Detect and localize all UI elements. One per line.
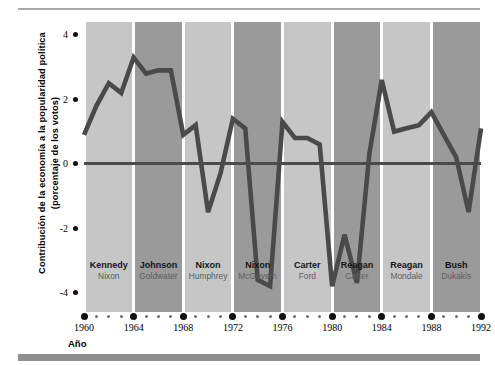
y-tick-dot <box>73 226 78 231</box>
x-tick-minor-1981 <box>343 315 346 318</box>
band-winner-name: Reagan <box>383 260 430 271</box>
x-tick-minor-1961 <box>95 315 98 318</box>
x-tick-label-1968: 1968 <box>163 322 203 333</box>
x-tick-minor-1975 <box>269 315 272 318</box>
band-winner-name: Nixon <box>234 260 281 271</box>
x-tick-label-1984: 1984 <box>362 322 402 333</box>
x-tick-major-1960 <box>81 313 88 320</box>
x-tick-minor-1963 <box>120 315 123 318</box>
x-tick-minor-1985 <box>393 315 396 318</box>
band-label-1980: ReaganCarter <box>334 260 381 282</box>
plot-area: KennedyNixonJohnsonGoldwaterNixonHumphre… <box>84 22 481 312</box>
y-tick-neg4: -4 <box>38 287 78 299</box>
band-loser-name: Dukakis <box>433 271 480 282</box>
x-tick-minor-1966 <box>157 315 160 318</box>
band-loser-name: Ford <box>284 271 331 282</box>
x-tick-minor-1991 <box>467 315 470 318</box>
x-tick-major-1968 <box>180 313 187 320</box>
band-winner-name: Bush <box>433 260 480 271</box>
band-winner-name: Carter <box>284 260 331 271</box>
chart-figure: Contribución de la economía a la popular… <box>0 0 495 365</box>
band-label-1964: JohnsonGoldwater <box>135 260 182 282</box>
y-tick-dot <box>73 32 78 37</box>
top-divider <box>18 8 480 10</box>
x-tick-minor-1965 <box>145 315 148 318</box>
x-tick-minor-1990 <box>455 315 458 318</box>
band-winner-name: Kennedy <box>86 260 133 271</box>
x-tick-minor-1978 <box>306 315 309 318</box>
x-tick-label-1980: 1980 <box>312 322 352 333</box>
x-tick-minor-1979 <box>318 315 321 318</box>
x-tick-major-1980 <box>329 313 336 320</box>
band-loser-name: Nixon <box>86 271 133 282</box>
bottom-bar <box>18 354 480 361</box>
y-tick-dot <box>73 290 78 295</box>
band-label-1988: BushDukakis <box>433 260 480 282</box>
y-tick-label: -2 <box>60 223 68 234</box>
x-tick-major-1992 <box>478 313 485 320</box>
x-axis-title: Año <box>68 338 86 349</box>
x-tick-minor-1962 <box>107 315 110 318</box>
x-tick-label-1992: 1992 <box>461 322 495 333</box>
x-tick-major-1988 <box>428 313 435 320</box>
band-loser-name: Goldwater <box>135 271 182 282</box>
y-tick-label: 4 <box>63 29 68 40</box>
x-tick-major-1964 <box>130 313 137 320</box>
x-tick-minor-1973 <box>244 315 247 318</box>
y-tick-2: 2 <box>38 93 78 105</box>
x-tick-label-1976: 1976 <box>263 322 303 333</box>
x-tick-major-1976 <box>279 313 286 320</box>
y-tick-4: 4 <box>38 29 78 41</box>
band-loser-name: Mondale <box>383 271 430 282</box>
band-label-1976: CarterFord <box>284 260 331 282</box>
band-loser-name: Carter <box>334 271 381 282</box>
x-tick-minor-1986 <box>405 315 408 318</box>
y-axis-title: Contribución de la economía a la popular… <box>32 8 66 298</box>
band-label-1972: NixonMcGovern <box>234 260 281 282</box>
x-tick-minor-1967 <box>169 315 172 318</box>
band-label-1968: NixonHumphrey <box>185 260 232 282</box>
x-tick-minor-1983 <box>368 315 371 318</box>
x-tick-label-1964: 1964 <box>114 322 154 333</box>
band-label-1984: ReaganMondale <box>383 260 430 282</box>
band-label-1960: KennedyNixon <box>86 260 133 282</box>
x-tick-label-1972: 1972 <box>213 322 253 333</box>
y-tick-0: 0 <box>38 158 78 170</box>
y-tick-dot <box>73 161 78 166</box>
y-tick-label: -4 <box>60 287 68 298</box>
x-tick-minor-1982 <box>355 315 358 318</box>
y-tick-neg2: -2 <box>38 222 78 234</box>
x-tick-minor-1974 <box>256 315 259 318</box>
x-tick-major-1972 <box>229 313 236 320</box>
x-tick-minor-1977 <box>293 315 296 318</box>
x-tick-minor-1971 <box>219 315 222 318</box>
band-loser-name: Humphrey <box>185 271 232 282</box>
y-tick-label: 2 <box>63 94 68 105</box>
x-tick-minor-1989 <box>442 315 445 318</box>
x-tick-major-1984 <box>378 313 385 320</box>
band-winner-name: Johnson <box>135 260 182 271</box>
y-tick-dot <box>73 97 78 102</box>
y-tick-label: 0 <box>63 158 68 169</box>
x-tick-label-1988: 1988 <box>411 322 451 333</box>
x-tick-minor-1970 <box>207 315 210 318</box>
x-tick-minor-1969 <box>194 315 197 318</box>
band-loser-name: McGovern <box>234 271 281 282</box>
band-winner-name: Nixon <box>185 260 232 271</box>
band-winner-name: Reagan <box>334 260 381 271</box>
x-tick-label-1960: 1960 <box>64 322 104 333</box>
x-tick-minor-1987 <box>417 315 420 318</box>
y-axis-title-text: Contribución de la economía a la popular… <box>36 8 62 298</box>
